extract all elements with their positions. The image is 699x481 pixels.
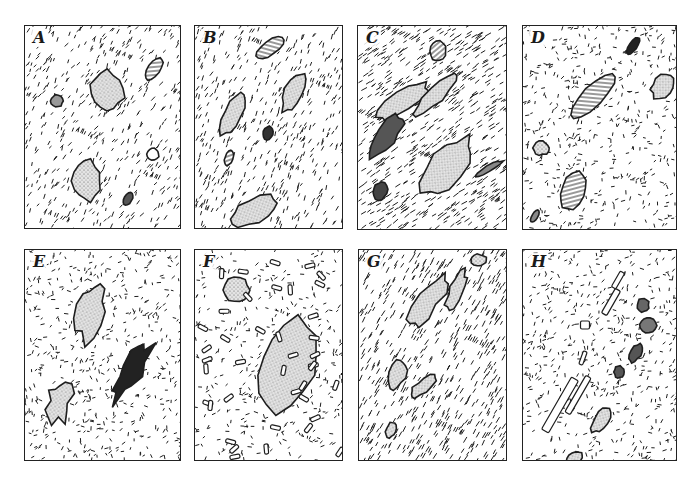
texture-c: [358, 26, 506, 229]
panel-d: D: [522, 25, 677, 230]
panel-h: H: [522, 249, 677, 461]
panel-label: G: [365, 253, 383, 271]
panel-g: G: [358, 249, 507, 461]
texture-f: [195, 250, 342, 460]
texture-a: [25, 26, 180, 228]
panel-e: E: [24, 249, 181, 461]
panel-a: A: [24, 25, 181, 229]
panel-label: H: [529, 253, 548, 271]
panel-label: E: [31, 253, 47, 271]
panel-c: C: [357, 25, 507, 230]
texture-h: [523, 250, 676, 460]
panel-b: B: [194, 25, 343, 229]
texture-b: [195, 26, 342, 228]
panel-label: D: [529, 29, 547, 47]
texture-e: [25, 250, 180, 460]
panel-f: F: [194, 249, 343, 461]
panel-label: B: [201, 29, 219, 47]
texture-d: [523, 26, 676, 229]
panel-label: F: [201, 253, 216, 271]
panel-label: C: [364, 29, 381, 47]
texture-g: [359, 250, 506, 460]
panel-label: A: [31, 29, 47, 47]
